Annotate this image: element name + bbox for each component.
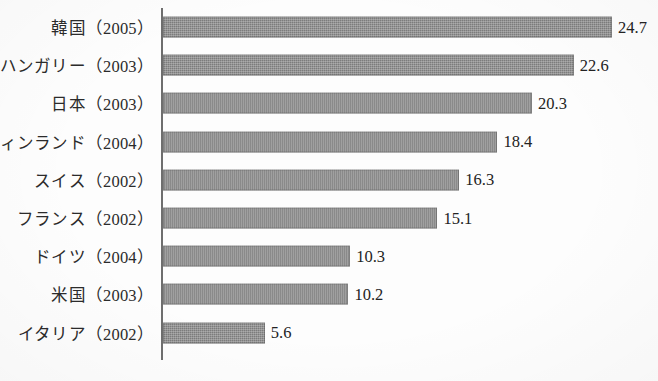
bar-row: ハンガリー（2003）22.6	[0, 46, 658, 84]
category-label: 日本（2003）	[51, 91, 154, 115]
bar	[163, 93, 532, 114]
plot-area: 韓国（2005）24.7ハンガリー（2003）22.6日本（2003）20.3フ…	[0, 0, 658, 381]
bar-value-label: 20.3	[532, 93, 567, 113]
bar	[163, 169, 459, 190]
category-label: フランス（2002）	[17, 206, 154, 230]
bar	[163, 131, 497, 152]
bar-value-label: 18.4	[497, 132, 532, 152]
category-label: スイス（2002）	[34, 168, 154, 192]
bar	[163, 246, 350, 267]
bar-value-label: 24.7	[612, 17, 647, 37]
bar-row: ドイツ（2004）10.3	[0, 237, 658, 275]
bar-row: フィンランド（2004）18.4	[0, 123, 658, 161]
category-label: イタリア（2002）	[18, 321, 154, 345]
bar-value-label: 10.2	[348, 284, 383, 304]
bar-track: 10.2	[163, 284, 348, 305]
bar-row: 日本（2003）20.3	[0, 84, 658, 122]
bar-track: 22.6	[163, 55, 574, 76]
bar-track: 18.4	[163, 131, 497, 152]
bar-value-label: 10.3	[350, 246, 385, 266]
bar-row: 米国（2003）10.2	[0, 275, 658, 313]
bar-row: イタリア（2002）5.6	[0, 314, 658, 352]
category-label: 米国（2003）	[51, 282, 154, 306]
category-label: フィンランド（2004）	[0, 130, 154, 154]
bar	[163, 208, 437, 229]
bar	[163, 322, 265, 343]
bar	[163, 17, 612, 38]
bar-track: 24.7	[163, 17, 612, 38]
bar-track: 20.3	[163, 93, 532, 114]
bar-row: 韓国（2005）24.7	[0, 8, 658, 46]
bar-value-label: 22.6	[574, 55, 609, 75]
category-label: ハンガリー（2003）	[0, 53, 154, 77]
bar-chart-figure: 韓国（2005）24.7ハンガリー（2003）22.6日本（2003）20.3フ…	[0, 0, 658, 381]
bar-track: 15.1	[163, 208, 437, 229]
bar-track: 5.6	[163, 322, 265, 343]
bar-track: 10.3	[163, 246, 350, 267]
bar-track: 16.3	[163, 169, 459, 190]
bar-row: フランス（2002）15.1	[0, 199, 658, 237]
bar-value-label: 15.1	[437, 208, 472, 228]
bar	[163, 55, 574, 76]
category-label: ドイツ（2004）	[34, 244, 154, 268]
category-label: 韓国（2005）	[51, 15, 154, 39]
bar-row: スイス（2002）16.3	[0, 161, 658, 199]
bar	[163, 284, 348, 305]
bar-value-label: 5.6	[265, 323, 292, 343]
bar-value-label: 16.3	[459, 170, 494, 190]
